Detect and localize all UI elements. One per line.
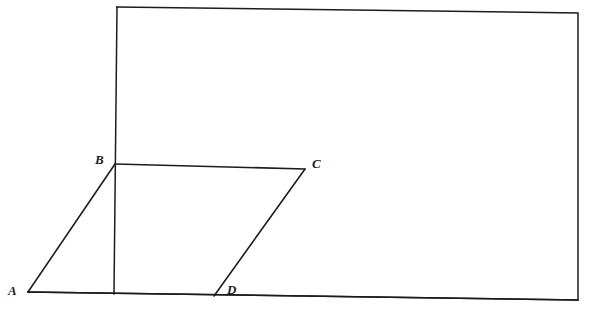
geometry-figure: A B C D	[0, 0, 590, 313]
frame-top-right-path	[28, 7, 578, 300]
diagram-canvas	[0, 0, 590, 313]
frame-bottom-edge	[28, 292, 578, 300]
vertex-label-c: C	[312, 157, 321, 170]
edge-ab	[28, 164, 115, 292]
vertex-label-d: D	[227, 283, 236, 296]
vertex-label-b: B	[95, 153, 104, 166]
edge-bc	[115, 164, 305, 169]
frame-left-edge	[114, 7, 117, 294]
vertex-label-a: A	[8, 284, 17, 297]
edge-cd	[214, 169, 305, 296]
